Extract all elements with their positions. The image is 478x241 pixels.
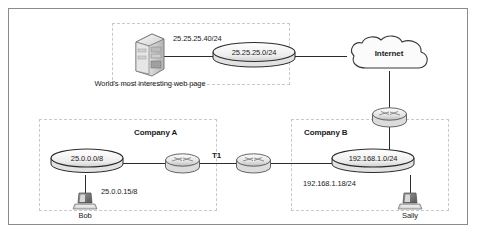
company-b-edge-router[interactable]	[371, 107, 408, 128]
link-internet-to-edge-router	[389, 71, 390, 108]
sally-address-label: 192.168.1.18/24	[303, 180, 356, 188]
sally-label: Sally	[402, 212, 418, 220]
bob-address-label: 25.0.0.15/8	[101, 188, 137, 196]
router-icon	[164, 153, 201, 174]
internet-label: Internet	[375, 50, 404, 58]
company-a-network-segment[interactable]: 25.0.0.0/8	[50, 148, 124, 176]
link-web-segment-to-internet	[294, 56, 347, 57]
bob-workstation[interactable]: Bob	[73, 192, 98, 211]
company-a-router[interactable]	[164, 153, 201, 174]
company-b-router[interactable]	[235, 153, 272, 174]
sally-workstation[interactable]: Sally	[398, 192, 423, 211]
company-b-segment-label: 192.168.1.0/24	[349, 155, 398, 163]
company-a-zone-title: Company A	[134, 129, 177, 137]
web-network-segment-label: 25.25.25.0/24	[232, 49, 277, 57]
company-a-segment-label: 25.0.0.0/8	[71, 155, 103, 163]
web-server-caption: World's most interesting web page	[95, 80, 206, 88]
link-company-a-segment-to-router	[122, 163, 166, 164]
link-company-b-router-to-segment	[271, 163, 333, 164]
router-icon	[371, 107, 408, 128]
company-b-network-segment[interactable]: 192.168.1.0/24	[331, 148, 415, 176]
web-network-segment[interactable]: 25.25.25.0/24	[212, 41, 296, 71]
workstation-icon	[398, 192, 423, 211]
server-tower-icon	[133, 33, 167, 77]
web-server[interactable]	[133, 33, 167, 77]
link-server-to-web-segment	[164, 56, 214, 57]
company-b-zone-title: Company B	[304, 129, 348, 137]
network-diagram: World's most interesting web page 25.25.…	[0, 0, 478, 241]
workstation-icon	[73, 192, 98, 211]
router-icon	[235, 153, 272, 174]
diagram-frame: World's most interesting web page 25.25.…	[8, 8, 468, 225]
t1-link-label: T1	[212, 152, 221, 160]
bob-label: Bob	[78, 212, 91, 220]
internet-cloud[interactable]: Internet	[346, 35, 432, 75]
